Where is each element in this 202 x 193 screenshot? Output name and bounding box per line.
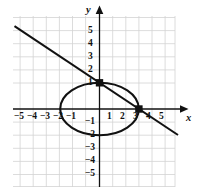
- intersection-point-0-2: [96, 79, 103, 86]
- x-tick-label-4: 4: [146, 112, 151, 122]
- y-axis-title: y: [86, 5, 91, 16]
- x-tick-label-neg2: −2: [53, 112, 63, 122]
- x-tick-label-5: 5: [159, 112, 164, 122]
- coordinate-plane-svg: [0, 0, 202, 193]
- graph-figure: −5 −4 −3 −2 −1 1 2 3 4 5 5 4 3 2 1 −1 −2…: [0, 0, 202, 193]
- y-tick-label-4: 4: [88, 39, 93, 49]
- x-tick-label-neg3: −3: [40, 112, 50, 122]
- y-tick-label-neg2: −2: [85, 130, 95, 140]
- x-axis-title: x: [186, 113, 191, 124]
- y-tick-label-neg3: −3: [85, 143, 95, 153]
- y-tick-label-neg4: −4: [85, 156, 95, 166]
- y-tick-label-neg1: −1: [85, 117, 95, 127]
- x-tick-label-neg4: −4: [27, 112, 37, 122]
- x-tick-label-1: 1: [107, 112, 112, 122]
- x-tick-label-3: 3: [133, 112, 138, 122]
- x-tick-label-neg1: −1: [66, 112, 76, 122]
- y-tick-label-neg5: −5: [85, 169, 95, 179]
- y-tick-label-3: 3: [88, 52, 93, 62]
- y-axis: [96, 6, 104, 188]
- x-tick-label-neg5: −5: [14, 112, 24, 122]
- y-tick-label-1: 1: [88, 78, 93, 88]
- y-tick-label-2: 2: [88, 65, 93, 75]
- y-tick-label-5: 5: [88, 26, 93, 36]
- x-tick-label-2: 2: [120, 112, 125, 122]
